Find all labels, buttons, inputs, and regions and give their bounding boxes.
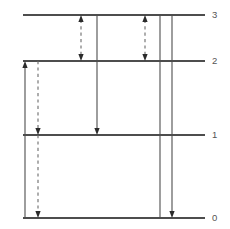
energy-level-label-2: 2 (212, 55, 217, 66)
energy-level-label-3: 3 (212, 9, 217, 20)
energy-level-label-0: 0 (212, 212, 217, 223)
level-labels-group: 3210 (212, 9, 217, 223)
transition-arrowhead-t1-end (22, 61, 27, 68)
transition-arrowhead-t4-end (78, 15, 83, 22)
transition-arrowhead-t8-end (169, 211, 174, 218)
transition-arrowhead-t2-end (35, 128, 40, 135)
diagram-canvas: 3210 (0, 0, 230, 229)
transitions-group (22, 15, 174, 218)
transition-arrowhead-t4-start (78, 54, 83, 61)
energy-levels-group (23, 15, 205, 218)
energy-level-label-1: 1 (212, 129, 217, 140)
transition-arrowhead-t6-end (142, 15, 147, 22)
transition-arrowhead-t3-end (35, 211, 40, 218)
transition-arrowhead-t5-end (94, 128, 99, 135)
energy-level-diagram: 3210 (0, 0, 230, 229)
transition-arrowhead-t6-start (142, 54, 147, 61)
